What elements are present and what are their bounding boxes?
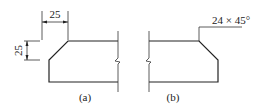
panel-a-horizontal-dimension: 25 <box>42 8 68 40</box>
panel-b-outline <box>149 41 218 82</box>
arrow-up-icon <box>26 41 29 46</box>
panel-b: 24 × 45° (b) <box>146 14 250 104</box>
arrow-left-icon <box>42 21 47 24</box>
panel-b-break-line <box>146 31 151 92</box>
panel-a-outline <box>49 41 118 82</box>
panel-a-vertical-dimension: 25 <box>12 41 40 60</box>
panel-b-chamfer-leader: 24 × 45° <box>199 14 250 41</box>
panel-b-caption: (b) <box>167 91 180 104</box>
chamfer-detail-diagram: 25 25 (a) 24 × 45° (b) <box>0 0 263 111</box>
panel-a: 25 25 (a) <box>12 8 120 104</box>
panel-a-dim-vertical-label: 25 <box>12 45 24 57</box>
panel-a-dim-horizontal-label: 25 <box>50 8 62 20</box>
panel-a-break-line <box>115 31 120 92</box>
panel-a-caption: (a) <box>79 91 92 104</box>
arrow-down-icon <box>26 55 29 60</box>
panel-b-chamfer-label: 24 × 45° <box>212 14 250 26</box>
arrow-right-icon <box>63 21 68 24</box>
